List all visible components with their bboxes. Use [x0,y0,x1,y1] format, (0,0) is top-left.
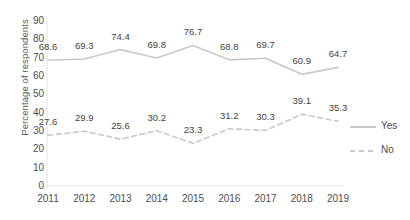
data-label-yes-2019: 64.7 [320,49,356,59]
x-axis-tick-2015: 2015 [173,194,213,204]
data-label-yes-2018: 60.9 [284,56,320,66]
data-label-no-2011: 27.6 [30,117,66,127]
x-axis-tick-2016: 2016 [209,194,249,204]
data-label-no-2019: 35.3 [320,103,356,113]
data-label-no-2017: 30.3 [248,112,284,122]
x-axis-tick-2011: 2011 [28,194,68,204]
line-chart: Percentage of respondents 90807060504030… [0,0,410,220]
data-label-yes-2017: 69.7 [248,40,284,50]
data-label-yes-2015: 76.7 [175,27,211,37]
legend-item-no[interactable]: No [350,142,410,166]
legend-label-no: No [381,144,394,156]
legend-line-dashed-icon [350,150,376,152]
legend-item-yes[interactable]: Yes [350,118,410,142]
legend-label-yes: Yes [381,120,397,132]
legend-line-solid-icon [350,126,376,128]
data-label-no-2015: 23.3 [175,125,211,135]
data-label-yes-2011: 68.6 [30,42,66,52]
x-axis-tick-2019: 2019 [318,194,358,204]
data-label-yes-2013: 74.4 [103,32,139,42]
data-label-no-2014: 30.2 [139,113,175,123]
data-label-yes-2014: 69.8 [139,40,175,50]
data-label-no-2018: 39.1 [284,96,320,106]
x-axis-tick-2013: 2013 [101,194,141,204]
x-axis-tick-2014: 2014 [137,194,177,204]
data-label-yes-2016: 68.8 [211,42,247,52]
x-axis-tick-2012: 2012 [64,194,104,204]
x-axis-tick-2018: 2018 [282,194,322,204]
x-axis-tick-2017: 2017 [246,194,286,204]
chart-legend: Yes No [350,118,410,166]
data-label-no-2016: 31.2 [211,111,247,121]
data-label-no-2012: 29.9 [66,113,102,123]
data-label-yes-2012: 69.3 [66,41,102,51]
data-label-no-2013: 25.6 [103,121,139,131]
